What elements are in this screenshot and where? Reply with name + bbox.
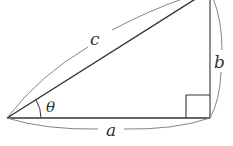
label-angle: θ [46,98,55,116]
measure-arc-b-lower [210,72,221,118]
measure-arc-a-right [124,118,210,129]
label-adjacent: a [106,120,116,140]
side-hypotenuse [7,0,197,118]
measure-arc-b-upper [213,0,222,50]
measure-arc-c-upper [112,0,185,30]
right-angle-marker [186,95,210,118]
right-triangle-diagram: c b a θ [0,0,233,146]
measure-arc-a-left [7,118,98,129]
label-opposite: b [214,52,225,72]
label-hypotenuse: c [90,29,100,49]
angle-arc [36,100,41,118]
